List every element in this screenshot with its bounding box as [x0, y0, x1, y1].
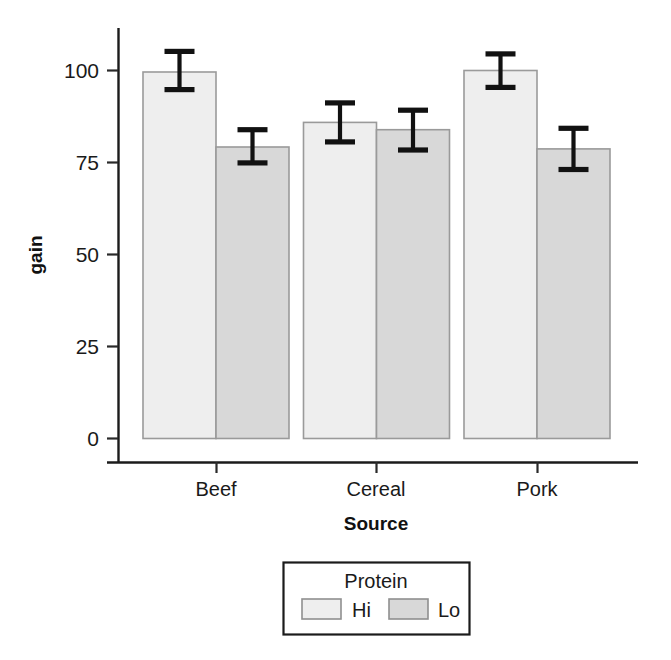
- x-tick-label-cereal: Cereal: [347, 478, 406, 500]
- legend-label-lo: Lo: [438, 599, 460, 621]
- x-tick-label-beef: Beef: [195, 478, 237, 500]
- x-axis-title: Source: [344, 513, 408, 534]
- legend-swatch-lo[interactable]: [389, 599, 428, 619]
- chart-canvas: 100 75 50 25 0 gain Beef Cereal Pork Sou…: [0, 0, 671, 660]
- x-tick-label-pork: Pork: [516, 478, 558, 500]
- y-tick-label-0: 0: [87, 427, 99, 450]
- y-tick-label-25: 25: [76, 335, 99, 358]
- y-tick-label-50: 50: [76, 243, 99, 266]
- y-tick-label-75: 75: [76, 151, 99, 174]
- y-axis-title: gain: [25, 235, 46, 274]
- bar-pork-lo[interactable]: [537, 149, 610, 439]
- bar-chart-figure: 100 75 50 25 0 gain Beef Cereal Pork Sou…: [0, 0, 671, 660]
- bar-cereal-lo[interactable]: [377, 130, 450, 439]
- legend-swatch-hi[interactable]: [302, 599, 341, 619]
- legend-title: Protein: [344, 570, 407, 592]
- bar-beef-hi[interactable]: [143, 72, 216, 439]
- bar-pork-hi[interactable]: [464, 71, 537, 439]
- legend-label-hi: Hi: [352, 599, 371, 621]
- bar-cereal-hi[interactable]: [304, 122, 377, 438]
- y-tick-label-100: 100: [64, 59, 99, 82]
- bar-beef-lo[interactable]: [216, 147, 289, 439]
